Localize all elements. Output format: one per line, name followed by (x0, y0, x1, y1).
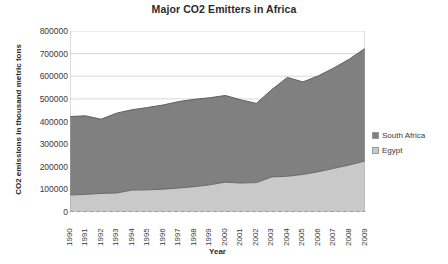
x-axis-tick-label: 1993 (112, 228, 120, 246)
x-axis-tick-label: 2004 (283, 228, 291, 246)
y-axis-tick-label: 500000 (20, 95, 68, 104)
x-axis-tick-label: 1999 (205, 228, 213, 246)
x-axis-tick-label: 2003 (267, 228, 275, 246)
legend-item[interactable]: South Africa (372, 131, 446, 140)
x-axis-tick-label: 1991 (81, 228, 89, 246)
legend-swatch-icon (372, 147, 379, 154)
chart-container: Major CO2 Emitters in Africa CO2 emissio… (0, 0, 448, 264)
legend-item-label: South Africa (382, 131, 425, 140)
x-axis-tick-label: 2007 (329, 228, 337, 246)
x-axis-tick-label: 2009 (361, 228, 369, 246)
plot-area (70, 31, 365, 212)
y-axis-tick-label: 100000 (20, 185, 68, 194)
x-axis-tick-label: 1992 (97, 228, 105, 246)
y-axis-tick-label: 800000 (20, 27, 68, 36)
y-axis-tick-label: 0 (20, 208, 68, 217)
y-axis-tick-label: 400000 (20, 117, 68, 126)
y-axis-tick-label: 700000 (20, 49, 68, 58)
x-axis-tick-label: 1994 (128, 228, 136, 246)
x-axis-tick-label: 1997 (174, 228, 182, 246)
x-axis-tick-label: 1996 (159, 228, 167, 246)
x-axis-tick-label: 2002 (252, 228, 260, 246)
y-axis-tick-label: 200000 (20, 163, 68, 172)
y-axis-tick-labels: 8000007000006000005000004000003000002000… (18, 0, 68, 264)
legend-item-label: Egypt (382, 146, 402, 155)
y-axis-tick-label: 300000 (20, 140, 68, 149)
x-axis-tick-label: 2000 (221, 228, 229, 246)
y-axis-tick-label: 600000 (20, 72, 68, 81)
legend-swatch-icon (372, 132, 379, 139)
x-axis-title: Year (70, 247, 365, 256)
x-axis-tick-label: 2005 (298, 228, 306, 246)
x-axis-tick-label: 1995 (143, 228, 151, 246)
x-axis-tick-label: 2008 (345, 228, 353, 246)
x-axis-tick-labels: 1990199119921993199419951996199719981999… (70, 214, 365, 246)
x-axis-tick-label: 1998 (190, 228, 198, 246)
x-axis-tick-label: 1990 (66, 228, 74, 246)
x-axis-tick-label: 2001 (236, 228, 244, 246)
legend-item[interactable]: Egypt (372, 146, 446, 155)
x-axis-tick-label: 2006 (314, 228, 322, 246)
chart-legend: South AfricaEgypt (372, 131, 446, 161)
